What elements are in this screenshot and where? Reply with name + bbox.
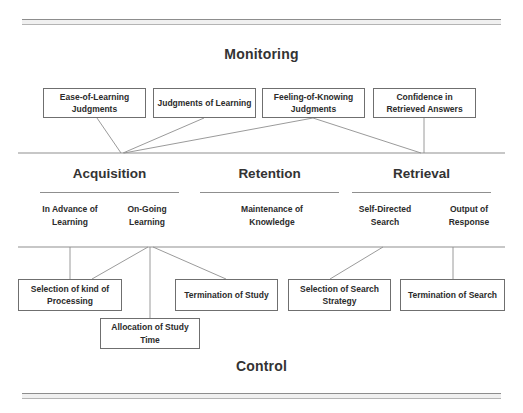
metacognition-framework-diagram: Monitoring Control Ease-of-Learning Judg… <box>0 0 523 413</box>
node-ease-of-learning-judgments[interactable]: Ease-of-Learning Judgments <box>43 88 146 118</box>
node-allocation-of-study-time[interactable]: Allocation of Study Time <box>100 318 200 349</box>
node-feeling-of-knowing-judgments[interactable]: Feeling-of-Knowing Judgments <box>262 88 365 118</box>
wire-termination-study <box>153 247 226 279</box>
substage-maintenance-of-knowledge: Maintenance of Knowledge <box>232 203 312 229</box>
node-termination-of-search[interactable]: Termination of Search <box>400 279 505 311</box>
wire-search-strategy <box>330 247 383 279</box>
wire-ease-of-learning <box>97 118 121 153</box>
substage-in-advance-of-learning: In Advance of Learning <box>33 203 107 229</box>
top-border-rule <box>22 19 501 25</box>
substage-self-directed-search: Self-Directed Search <box>348 203 422 229</box>
substage-on-going-learning: On-Going Learning <box>110 203 184 229</box>
substage-output-of-response: Output of Response <box>432 203 506 229</box>
stage-underline-retrieval <box>352 192 491 193</box>
node-label: Selection of kind of Processing <box>22 283 118 308</box>
node-label: Selection of Search Strategy <box>292 283 387 308</box>
wire-judgments-of-learning <box>123 118 204 153</box>
wire-feeling-left <box>124 118 313 153</box>
node-label: Ease-of-Learning Judgments <box>47 91 142 116</box>
node-label: Judgments of Learning <box>158 97 252 109</box>
stage-underline-retention <box>200 192 339 193</box>
stage-name-retention: Retention <box>200 166 339 181</box>
monitoring-title: Monitoring <box>0 46 523 62</box>
node-label: Confidence in Retrieved Answers <box>377 91 472 116</box>
node-label: Termination of Search <box>408 289 497 301</box>
wire-processing-diagonal <box>92 247 148 279</box>
node-selection-of-search-strategy[interactable]: Selection of Search Strategy <box>288 279 391 311</box>
stage-underline-acquisition <box>40 192 179 193</box>
bottom-border-rule <box>22 393 501 399</box>
node-judgments-of-learning[interactable]: Judgments of Learning <box>153 88 256 118</box>
wire-feeling-right <box>313 118 421 153</box>
node-selection-of-kind-of-processing[interactable]: Selection of kind of Processing <box>18 279 122 311</box>
stage-name-retrieval: Retrieval <box>352 166 491 181</box>
control-title: Control <box>0 358 523 374</box>
node-label: Allocation of Study Time <box>104 321 196 346</box>
stage-name-acquisition: Acquisition <box>40 166 179 181</box>
node-label: Termination of Study <box>184 289 268 301</box>
node-label: Feeling-of-Knowing Judgments <box>266 91 361 116</box>
node-confidence-in-retrieved-answers[interactable]: Confidence in Retrieved Answers <box>373 88 476 118</box>
node-termination-of-study[interactable]: Termination of Study <box>175 279 278 311</box>
